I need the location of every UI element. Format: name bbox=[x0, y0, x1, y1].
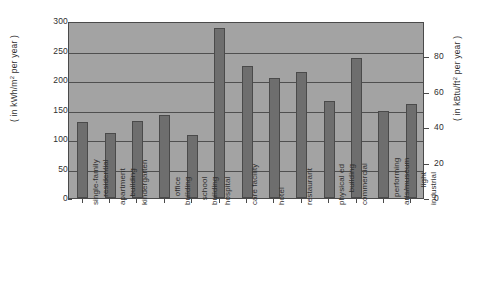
y-tick-mark-right bbox=[424, 57, 429, 58]
x-axis-label: lightindustrial bbox=[419, 172, 438, 205]
y-tick-label-left: 200 bbox=[24, 76, 68, 85]
x-axis-label: schoolbuilding bbox=[200, 177, 219, 205]
x-tick-mark bbox=[301, 199, 302, 203]
y-tick-label-left: 0 bbox=[24, 194, 68, 203]
y-tick-label-left: 100 bbox=[24, 135, 68, 144]
x-axis-label-line1: hotel bbox=[277, 187, 287, 205]
x-axis-label-line1: single-family bbox=[91, 159, 101, 205]
x-axis-label: kindergarten bbox=[140, 159, 150, 205]
x-axis-label-line1: care facility bbox=[250, 164, 260, 205]
y-tick-mark-right bbox=[424, 93, 429, 94]
y-axis-left: 050100150200250300 bbox=[14, 22, 68, 199]
x-tick-mark bbox=[219, 199, 220, 203]
x-axis-label: officebuilding bbox=[173, 177, 192, 205]
x-tick-mark bbox=[164, 199, 165, 203]
bar bbox=[378, 111, 389, 198]
x-axis-label-line2: arts/museum bbox=[401, 158, 411, 205]
y-tick-label-right: 20 bbox=[434, 159, 460, 168]
x-axis-label: hospital bbox=[223, 177, 233, 205]
x-axis-label-line1: kindergarten bbox=[140, 159, 150, 205]
y-axis-left-title: ( in kWh/m2 per year ) bbox=[7, 18, 20, 138]
x-axis-label: performingarts/museum bbox=[392, 158, 411, 205]
x-axis-label-line1: physical ed bbox=[337, 164, 347, 205]
y-tick-label-left: 300 bbox=[24, 17, 68, 26]
x-tick-mark bbox=[328, 199, 329, 203]
x-axis-label-line1: performing bbox=[392, 158, 402, 205]
bar bbox=[159, 115, 170, 198]
x-axis-label: hotel bbox=[277, 187, 287, 205]
y-axis-right-exponent: 2 bbox=[452, 77, 458, 81]
x-axis-label-line2: building bbox=[347, 164, 357, 205]
x-tick-mark bbox=[356, 199, 357, 203]
x-axis-label-line1: light bbox=[419, 172, 429, 205]
x-tick-mark bbox=[273, 199, 274, 203]
energy-use-bar-chart: 050100150200250300 ( in kWh/m2 per year … bbox=[0, 0, 480, 286]
x-axis-label-line1: office bbox=[173, 177, 183, 205]
x-axis-label-line1: school bbox=[200, 177, 210, 205]
bar bbox=[214, 28, 225, 199]
x-axis-label-line1: restaurant bbox=[305, 168, 315, 205]
x-axis-label: apartmentbuilding bbox=[118, 168, 137, 205]
x-tick-mark bbox=[410, 199, 411, 203]
x-axis-label: care facility bbox=[250, 164, 260, 205]
x-tick-mark bbox=[246, 199, 247, 203]
x-axis-label: single-familyresidential bbox=[91, 159, 110, 205]
bar bbox=[324, 101, 335, 198]
x-axis-label: commercial bbox=[360, 163, 370, 205]
x-axis-label-line1: hospital bbox=[223, 177, 233, 205]
x-tick-mark bbox=[109, 199, 110, 203]
x-axis-label-line2: building bbox=[210, 177, 220, 205]
x-axis-label-line1: apartment bbox=[118, 168, 128, 205]
x-tick-mark bbox=[383, 199, 384, 203]
y-tick-mark-right bbox=[424, 128, 429, 129]
y-tick-label-left: 150 bbox=[24, 106, 68, 115]
y-axis-left-exponent: 2 bbox=[9, 76, 15, 80]
x-axis-label: restaurant bbox=[305, 168, 315, 205]
y-tick-mark-right bbox=[424, 164, 429, 165]
y-axis-right-title: ( in kBtu/ft2 per year ) bbox=[450, 18, 463, 138]
x-axis-label-line2: industrial bbox=[429, 172, 439, 205]
y-tick-label-left: 250 bbox=[24, 47, 68, 56]
x-tick-mark bbox=[136, 199, 137, 203]
x-axis-labels: single-familyresidentialapartmentbuildin… bbox=[68, 199, 424, 286]
x-tick-mark bbox=[82, 199, 83, 203]
x-axis-label-line1: commercial bbox=[360, 163, 370, 205]
x-tick-mark bbox=[191, 199, 192, 203]
bar bbox=[269, 78, 280, 198]
bar bbox=[77, 122, 88, 198]
y-tick-label-left: 50 bbox=[24, 165, 68, 174]
x-axis-label: physical edbuilding bbox=[337, 164, 356, 205]
